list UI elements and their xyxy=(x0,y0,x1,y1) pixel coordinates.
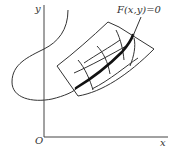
origin-label: O xyxy=(35,135,43,146)
x-axis-label: x xyxy=(160,137,166,148)
label-leader-line xyxy=(133,17,141,36)
curve-equation-label: F(x,y)=0 xyxy=(116,4,162,15)
y-axis-label: y xyxy=(34,3,41,14)
patch-grid-line xyxy=(74,45,128,73)
diagram-canvas: y O x F(x,y)=0 xyxy=(0,0,176,149)
implicit-curve xyxy=(12,10,78,100)
